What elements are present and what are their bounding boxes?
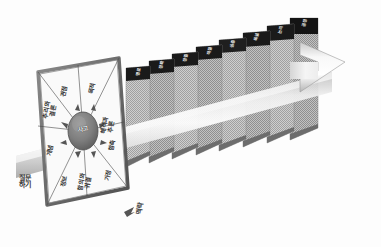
wheel-label-interpretation: 해석과 추론 bbox=[100, 117, 116, 135]
context-pointer bbox=[124, 207, 135, 217]
filter-screen-5 bbox=[219, 38, 246, 151]
diagram-canvas: 사고 관점 목적 해석과 추론 함축 가정 함의와 귀결 정보 개념 추리와 결… bbox=[0, 0, 381, 247]
filter-screen-4 bbox=[196, 45, 222, 155]
filter-screen-1 bbox=[126, 66, 150, 167]
diagram-artwork bbox=[0, 0, 381, 247]
filter-screen-2 bbox=[149, 59, 174, 163]
external-label-questioning: 질문 하기 bbox=[12, 175, 38, 190]
filter-screen-6 bbox=[243, 31, 270, 147]
filter-screen-3 bbox=[172, 52, 198, 159]
